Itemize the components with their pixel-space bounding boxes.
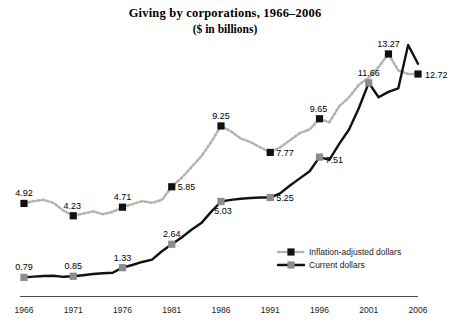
x-axis-tick-label: 1991 — [261, 305, 280, 315]
series-line-0 — [24, 54, 418, 216]
chart-legend: Inflation-adjusted dollarsCurrent dollar… — [278, 247, 401, 270]
legend-label-0: Inflation-adjusted dollars — [309, 247, 401, 257]
data-point-marker — [119, 264, 126, 271]
data-point-label: 5.25 — [276, 193, 294, 203]
data-point-label: 9.25 — [212, 111, 230, 121]
chart-container: Giving by corporations, 1966–2006 ($ in … — [0, 0, 450, 330]
legend-marker-1 — [287, 261, 294, 268]
data-point-label: 7.77 — [276, 148, 294, 158]
data-point-marker — [70, 273, 77, 280]
data-point-label: 9.65 — [310, 104, 328, 114]
data-point-marker — [119, 204, 126, 211]
data-point-marker — [385, 50, 392, 57]
x-axis-tick-label: 1981 — [162, 305, 181, 315]
data-point-marker — [168, 241, 175, 248]
data-point-marker — [414, 70, 421, 77]
x-axis-tick-label: 2001 — [359, 305, 378, 315]
x-axis-tick-label: 2006 — [409, 305, 428, 315]
x-axis-tick-label: 1996 — [310, 305, 329, 315]
data-label-layer: 4.924.234.715.859.257.779.6513.2712.720.… — [15, 39, 447, 272]
x-axis-tick-label: 1986 — [212, 305, 231, 315]
data-point-marker — [267, 149, 274, 156]
data-point-label: 7.51 — [326, 155, 344, 165]
data-point-label: 13.27 — [377, 39, 400, 49]
data-point-marker — [217, 198, 224, 205]
data-point-label: 5.85 — [178, 182, 196, 192]
data-point-label: 0.79 — [15, 262, 33, 272]
data-point-label: 11.66 — [358, 68, 380, 78]
x-axis-tick-label: 1976 — [113, 305, 132, 315]
data-point-marker — [267, 194, 274, 201]
series-line-1 — [24, 45, 418, 277]
data-point-marker — [365, 79, 372, 86]
legend-marker-0 — [287, 248, 294, 255]
line-chart-plot: 4.924.234.715.859.257.779.6513.2712.720.… — [0, 0, 450, 330]
data-point-label: 1.33 — [114, 253, 132, 263]
data-point-marker — [20, 200, 27, 207]
data-point-label: 4.71 — [114, 192, 132, 202]
data-point-label: 5.03 — [214, 206, 232, 216]
data-point-marker — [217, 122, 224, 129]
x-axis-tick-label: 1971 — [64, 305, 83, 315]
x-axis-tick-label: 1966 — [15, 305, 34, 315]
data-point-label: 2.64 — [163, 229, 181, 239]
x-axis: 196619711976198119861991199620012006 — [15, 297, 428, 316]
data-point-marker — [168, 183, 175, 190]
legend-label-1: Current dollars — [309, 260, 365, 270]
data-point-label: 4.92 — [15, 188, 33, 198]
data-point-marker — [316, 153, 323, 160]
data-point-label: 4.23 — [63, 201, 81, 211]
data-point-marker — [316, 115, 323, 122]
series-layer — [20, 45, 421, 281]
data-point-label: 0.85 — [64, 261, 82, 271]
data-point-label: 12.72 — [425, 70, 448, 80]
data-point-marker — [70, 212, 77, 219]
data-point-marker — [20, 274, 27, 281]
